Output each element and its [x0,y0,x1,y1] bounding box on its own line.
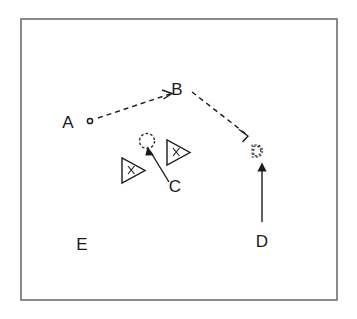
edge-d-label-to-d-arrowhead [257,163,266,172]
agent-right [167,140,190,165]
agent-right-mark-icon [173,148,180,156]
agent-right-body [167,140,190,165]
edge-b-to-d [192,92,246,134]
node-a-marker [87,118,92,123]
label-c-source: C [169,177,181,196]
label-d-source: D [256,232,268,251]
label-b: B [171,80,182,99]
diagram-svg: A B C D D E [0,0,357,319]
label-a: A [62,113,74,132]
node-c-dashed-circle [140,134,155,149]
edge-a-to-b [98,94,170,118]
edge-c-label-to-c [150,151,169,182]
agent-left [122,158,145,183]
agent-left-mark-icon [128,166,135,174]
label-d-target: D [251,142,263,161]
agent-left-body [122,158,145,183]
label-e: E [76,235,87,254]
region-frame [21,19,337,300]
diagram-canvas: A B C D D E [0,0,357,319]
